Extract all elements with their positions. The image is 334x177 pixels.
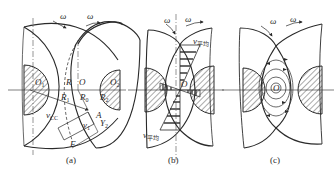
right-hatched-core (100, 70, 120, 110)
panel-b: ω ω v平均 v平均 O (b) (128, 14, 224, 165)
label-v-avg-top: v平均 (193, 36, 209, 48)
label-v1: v1 (83, 120, 90, 131)
label-r: R (65, 77, 72, 87)
omega-label: ω (60, 11, 66, 21)
label-o: O (273, 83, 280, 93)
label-v-avg-bottom: v平均 (143, 130, 159, 142)
label-r0: R0 (79, 92, 89, 103)
label-o: O (181, 79, 188, 89)
panel-c: ω ω O (c) (222, 14, 334, 165)
omega-label: ω (270, 16, 276, 26)
roller-flow-diagram: ω ω O1 R O O2 R1 R0 R2 vCC A v1 Y2 F (a) (0, 0, 334, 177)
caption-b: (b) (168, 155, 179, 165)
label-f: F (69, 139, 76, 149)
label-r1: R1 (60, 92, 70, 103)
right-hatched-core (298, 66, 322, 114)
right-roller-outline (76, 22, 140, 44)
label-vcc: vCC (46, 110, 58, 121)
omega-label: ω (164, 15, 170, 25)
omega-label: ω (290, 14, 296, 24)
caption-c: (c) (270, 155, 280, 165)
left-hatched-core (243, 68, 265, 112)
label-o: O (79, 77, 86, 87)
left-hatched-core (24, 65, 49, 115)
caption-a: (a) (66, 155, 76, 165)
omega-label: ω (87, 11, 93, 21)
omega-label: ω (185, 14, 191, 24)
label-y2: Y2 (100, 118, 108, 129)
panel-a: ω ω O1 R O O2 R1 R0 R2 vCC A v1 Y2 F (a) (8, 11, 140, 165)
